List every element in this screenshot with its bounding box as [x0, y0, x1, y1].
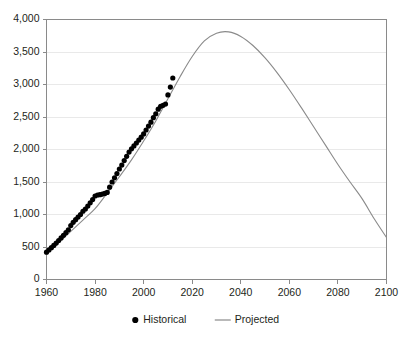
series-projected [47, 32, 387, 255]
historical-data-point [107, 185, 112, 190]
projected-line [47, 32, 387, 255]
x-tick-label: 2040 [229, 286, 253, 298]
y-tick-label: 2,000 [13, 142, 39, 154]
x-tick-label: 1980 [83, 286, 107, 298]
legend-marker-circle-icon [132, 317, 138, 323]
y-tick-label: 3,000 [13, 77, 39, 89]
cropped-caption [0, 342, 417, 349]
historical-data-point [165, 92, 170, 97]
legend-label: Projected [235, 313, 280, 325]
y-tick-label: 1,000 [13, 207, 39, 219]
historical-data-point [114, 171, 119, 176]
gridlines [47, 20, 387, 248]
y-tick-label: 4,000 [13, 12, 39, 24]
historical-data-point [119, 163, 124, 168]
y-tick-label: 500 [22, 240, 40, 252]
legend-label: Historical [143, 313, 186, 325]
chart-figure: 05001,0001,5002,0002,5003,0003,5004,000 … [0, 0, 417, 349]
population-projection-chart: 05001,0001,5002,0002,5003,0003,5004,000 … [0, 0, 417, 349]
y-tick-label: 1,500 [13, 175, 39, 187]
historical-data-point [170, 75, 175, 80]
historical-data-point [163, 101, 168, 106]
chart-legend: HistoricalProjected [132, 313, 279, 325]
x-tick-label: 2080 [326, 286, 350, 298]
y-tick-label: 3,500 [13, 45, 39, 57]
y-axis-ticks: 05001,0001,5002,0002,5003,0003,5004,000 [13, 12, 46, 284]
historical-data-point [105, 190, 110, 195]
x-axis-ticks: 19601980200020202040206020802100 [35, 280, 399, 298]
x-tick-label: 2060 [278, 286, 302, 298]
y-tick-label: 0 [34, 272, 40, 284]
x-tick-label: 2000 [132, 286, 156, 298]
x-tick-label: 1960 [35, 286, 59, 298]
series-historical [44, 75, 175, 254]
x-tick-label: 2020 [181, 286, 205, 298]
y-tick-label: 2,500 [13, 110, 39, 122]
x-tick-label: 2100 [375, 286, 399, 298]
historical-data-point [168, 85, 173, 90]
historical-data-point [148, 120, 153, 125]
historical-data-point [153, 111, 158, 116]
